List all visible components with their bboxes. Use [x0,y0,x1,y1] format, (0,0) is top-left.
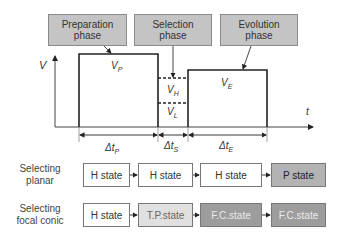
ve-sub: E [228,83,233,90]
vl-label: VL [167,106,178,119]
evolution-pointer-arrow [243,46,251,69]
vh-sub: H [174,90,179,97]
dtp-base: Δt [105,142,115,153]
state-box-h: H state [138,163,193,187]
state-box-h: H state [200,163,262,187]
row-label-focal-conic: Selecting focal conic [0,203,80,227]
preparation-pointer-arrow [104,46,111,53]
vp-base: V [111,60,118,71]
vh-base: V [167,84,174,95]
state-box-tp: T.P.state [138,203,193,227]
dts-label: ΔtS [164,140,178,153]
dtp-sub: P [115,148,120,155]
vh-label: VH [167,84,179,97]
dtp-label: ΔtP [105,142,119,155]
preparation-phase-box: Preparation phase [48,14,127,46]
selection-phase-box: Selection phase [134,14,212,46]
state-box-p: P state [271,163,326,187]
vp-sub: P [118,66,123,73]
dts-sub: S [174,146,179,153]
ve-label: VE [221,77,232,90]
state-box-h: H state [83,163,130,187]
dts-base: Δt [164,140,174,151]
row-label-planar: Selecting planar [0,163,80,187]
state-box-fc: F.C.state [271,203,326,227]
vl-base: V [167,106,174,117]
vp-label: VP [111,60,122,73]
y-axis-label: V [39,59,46,71]
evolution-phase-box: Evolution phase [220,14,298,46]
dte-sub: E [229,146,234,153]
state-box-h: H state [83,203,130,227]
x-axis-label: t [306,106,309,117]
vl-sub: L [174,112,178,119]
dte-base: Δt [219,140,229,151]
dte-label: ΔtE [219,140,233,153]
state-box-fc: F.C.state [200,203,262,227]
ve-base: V [221,77,228,88]
